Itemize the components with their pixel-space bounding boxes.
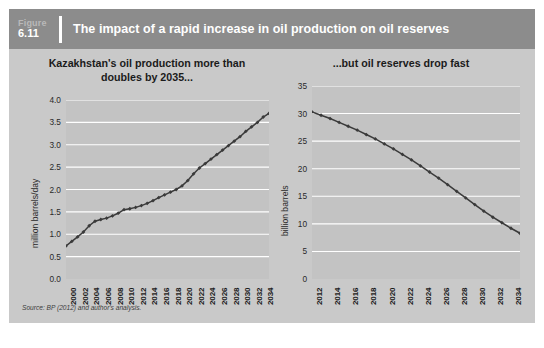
x-tick-label: 2034 — [266, 288, 275, 305]
y-tick-label: 30 — [278, 109, 307, 119]
y-tick-label: 10 — [278, 219, 307, 229]
series-line-left — [66, 113, 269, 245]
chart-title-left: Kazakhstan's oil production more than do… — [22, 56, 272, 84]
x-tick-label: 2020 — [185, 288, 194, 305]
data-point-marker — [105, 216, 109, 220]
data-point-marker — [134, 206, 138, 210]
x-tick-label: 2032 — [255, 288, 264, 305]
x-tick-label: 2030 — [243, 288, 252, 305]
plot-area-left — [66, 100, 269, 279]
y-tick-label: 0 — [278, 274, 307, 284]
x-tick-label: 2000 — [69, 288, 78, 305]
x-tick-label: 2024 — [208, 288, 217, 305]
y-tick-label: 2.5 — [32, 162, 61, 172]
y-tick-label: 4.0 — [32, 95, 61, 105]
figure-header: Figure 6.11 The impact of a rapid increa… — [9, 9, 535, 49]
y-tick-label: 1.5 — [32, 207, 61, 217]
series-line-right — [312, 112, 520, 233]
y-tick-label: 0.5 — [32, 252, 61, 262]
x-tick-label: 2024 — [424, 288, 433, 305]
source-note: Source: BP (2012) and author's analysis. — [22, 304, 141, 311]
x-tick-label: 2016 — [351, 288, 360, 305]
y-tick-label: 0.0 — [32, 274, 61, 284]
y-tick-label: 1.0 — [32, 229, 61, 239]
x-tick-label: 2008 — [116, 288, 125, 305]
chart-svg-left — [66, 100, 269, 279]
chart-svg-right — [312, 86, 520, 279]
y-tick-label: 20 — [278, 164, 307, 174]
y-tick-label: 3.0 — [32, 140, 61, 150]
x-tick-label: 2014 — [333, 288, 342, 305]
data-point-marker — [140, 204, 144, 208]
x-tick-label: 2028 — [460, 288, 469, 305]
plot-area-right — [312, 86, 520, 279]
x-tick-label: 2022 — [406, 288, 415, 305]
chart-title-left-line2: doubles by 2035... — [22, 70, 272, 84]
data-point-marker — [99, 218, 103, 222]
chart-title-left-line1: Kazakhstan's oil production more than — [22, 56, 272, 70]
x-tick-label: 2010 — [127, 288, 136, 305]
figure-number-block: Figure 6.11 — [9, 19, 59, 40]
y-tick-label: 2.0 — [32, 185, 61, 195]
chart-panel-right: ...but oil reserves drop fast billion ba… — [276, 56, 526, 314]
data-point-marker — [128, 207, 132, 211]
y-tick-label: 25 — [278, 136, 307, 146]
x-tick-label: 2004 — [92, 288, 101, 305]
x-tick-label: 2018 — [174, 288, 183, 305]
x-tick-label: 2018 — [369, 288, 378, 305]
x-tick-label: 2032 — [496, 288, 505, 305]
x-tick-label: 2016 — [162, 288, 171, 305]
x-tick-label: 2020 — [388, 288, 397, 305]
chart-panel-left: Kazakhstan's oil production more than do… — [22, 56, 272, 314]
x-tick-label: 2014 — [150, 288, 159, 305]
x-tick-label: 2026 — [220, 288, 229, 305]
x-tick-label: 2022 — [197, 288, 206, 305]
chart-title-right: ...but oil reserves drop fast — [276, 56, 526, 70]
y-tick-label: 35 — [278, 81, 307, 91]
x-tick-label: 2028 — [232, 288, 241, 305]
y-tick-label: 3.5 — [32, 117, 61, 127]
x-tick-label: 2026 — [442, 288, 451, 305]
x-tick-label: 2034 — [514, 288, 523, 305]
x-tick-label: 2030 — [478, 288, 487, 305]
x-tick-label: 2012 — [139, 288, 148, 305]
x-tick-label: 2006 — [104, 288, 113, 305]
x-tick-label: 2012 — [315, 288, 324, 305]
figure-panel: Figure 6.11 The impact of a rapid increa… — [0, 0, 544, 348]
figure-number-label: 6.11 — [18, 28, 59, 40]
y-tick-label: 15 — [278, 191, 307, 201]
figure-title: The impact of a rapid increase in oil pr… — [73, 22, 449, 36]
x-tick-label: 2002 — [81, 288, 90, 305]
y-tick-label: 5 — [278, 246, 307, 256]
header-divider — [59, 16, 62, 43]
